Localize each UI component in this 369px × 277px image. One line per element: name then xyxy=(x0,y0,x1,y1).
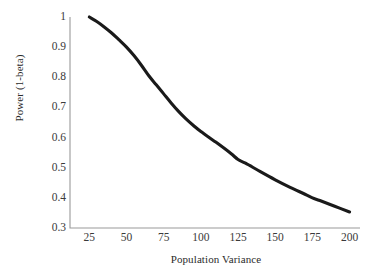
power-curve-line xyxy=(89,17,349,212)
plot-area xyxy=(0,0,369,277)
axis-lines xyxy=(70,17,360,228)
power-curve-chart: Power (1-beta) Population Variance 10.90… xyxy=(0,0,369,277)
